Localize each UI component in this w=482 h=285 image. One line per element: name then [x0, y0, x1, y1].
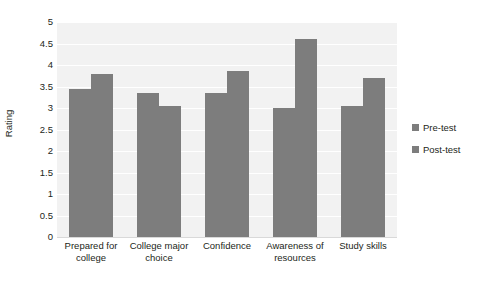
bar[interactable] [341, 106, 363, 237]
legend-swatch-icon [412, 146, 419, 153]
y-tick-label: 0 [7, 232, 53, 242]
x-tick-label: Awareness of resources [261, 240, 329, 263]
x-tick-label: Study skills [329, 240, 397, 252]
bars-layer [57, 22, 397, 237]
bar[interactable] [227, 71, 249, 237]
y-tick-label: 4.5 [7, 39, 53, 49]
y-tick-label: 2 [7, 146, 53, 156]
y-tick-label: 2.5 [7, 125, 53, 135]
legend-item[interactable]: Pre-test [412, 122, 482, 133]
legend-item[interactable]: Post-test [412, 144, 482, 155]
bar[interactable] [69, 89, 91, 237]
bar[interactable] [137, 93, 159, 237]
legend: Pre-testPost-test [412, 122, 482, 166]
legend-swatch-icon [412, 124, 419, 131]
bar[interactable] [159, 106, 181, 237]
bar-group [273, 22, 317, 237]
y-tick-label: 0.5 [7, 211, 53, 221]
x-tick-label: College major choice [125, 240, 193, 263]
bar[interactable] [295, 39, 317, 237]
y-tick-label: 4 [7, 60, 53, 70]
legend-label: Pre-test [423, 122, 456, 133]
bar-group [69, 22, 113, 237]
bar[interactable] [273, 108, 295, 237]
y-tick-label: 3 [7, 103, 53, 113]
y-tick-label: 3.5 [7, 82, 53, 92]
y-axis-title: Rating [3, 94, 14, 154]
y-tick-label: 1.5 [7, 168, 53, 178]
bar-group [341, 22, 385, 237]
x-axis-labels: Prepared for collegeCollege major choice… [57, 240, 397, 280]
bar[interactable] [363, 78, 385, 237]
bar[interactable] [91, 74, 113, 237]
bar-chart: 54.543.532.521.510.50 Rating Prepared fo… [0, 0, 482, 285]
y-tick-label: 5 [7, 17, 53, 27]
bar[interactable] [205, 93, 227, 237]
x-tick-label: Confidence [193, 240, 261, 252]
x-tick-label: Prepared for college [57, 240, 125, 263]
y-tick-label: 1 [7, 189, 53, 199]
x-axis-line [57, 237, 397, 238]
bar-group [137, 22, 181, 237]
bar-group [205, 22, 249, 237]
legend-label: Post-test [423, 144, 461, 155]
